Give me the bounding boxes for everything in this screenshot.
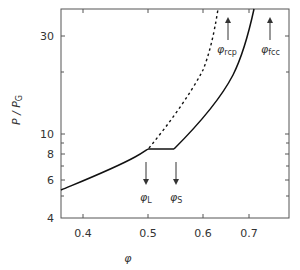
phi-s-label: φS [170, 191, 182, 205]
y-ticks [61, 36, 289, 196]
phi-l-label: φL [140, 191, 152, 205]
x-axis-label: φ [124, 252, 132, 265]
crystal-branch-curve [174, 9, 254, 149]
phi-fcc-label: φfcc [261, 43, 280, 57]
y-tick-label: 6 [47, 174, 54, 187]
chart: 0.4 0.5 0.6 0.7 4 6 8 10 30 φ P / PG φL … [0, 0, 300, 270]
y-tick-label: 10 [40, 128, 54, 141]
x-tick-label: 0.6 [194, 227, 212, 240]
x-ticks [83, 9, 249, 218]
glass-branch-dashed-curve [149, 9, 218, 148]
phi-rcp-label: φrcp [217, 43, 237, 57]
x-tick-label: 0.7 [240, 227, 258, 240]
y-tick-label: 4 [47, 212, 54, 225]
plot-frame [61, 9, 289, 218]
x-tick-label: 0.4 [74, 227, 92, 240]
y-axis-label: P / PG [10, 95, 24, 125]
fluid-branch-curve [61, 149, 148, 190]
svg-text:P / PG: P / PG [10, 95, 24, 125]
y-tick-label: 30 [40, 30, 54, 43]
x-tick-label: 0.5 [139, 227, 157, 240]
y-tick-label: 8 [47, 148, 54, 161]
